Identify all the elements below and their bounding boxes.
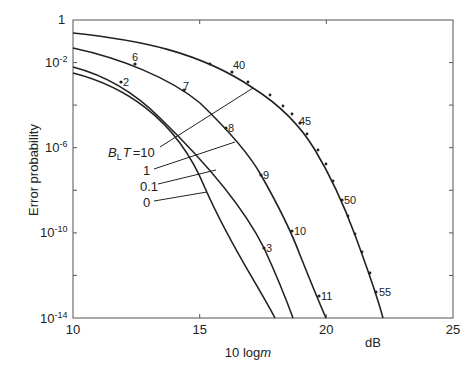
svg-text:11: 11	[321, 290, 332, 302]
svg-text:2: 2	[123, 76, 129, 88]
legend-labels: BLT=10 1 0.1 0	[108, 145, 158, 210]
curve-blt-10	[73, 33, 383, 318]
x-axis-title: 10 logm	[225, 345, 271, 360]
ytick-1e-6: 10-6	[45, 139, 67, 155]
curve-blt-1	[73, 48, 326, 318]
xtick-10: 10	[66, 322, 80, 337]
svg-text:6: 6	[132, 51, 138, 63]
chart: 1 10-2 10-6 10-10 10-14 10 15 20 25 Erro…	[0, 0, 474, 368]
legend-blt-10: BLT=10	[108, 145, 155, 162]
ytick-1: 1	[58, 12, 65, 27]
ytick-1e-14: 10-14	[40, 310, 67, 326]
x-axis-unit: dB	[365, 335, 381, 350]
curve-blt-0	[73, 73, 275, 318]
curve-markers	[119, 62, 377, 297]
legend-blt-0: 0	[143, 195, 150, 210]
svg-text:45: 45	[299, 115, 311, 127]
svg-text:3: 3	[266, 242, 272, 254]
svg-text:55: 55	[379, 286, 391, 298]
legend-blt-0.1: 0.1	[140, 179, 158, 194]
y-tick-labels: 1 10-2 10-6 10-10 10-14	[40, 12, 67, 326]
y-axis-title: Error probability	[26, 124, 41, 216]
svg-text:40: 40	[233, 59, 245, 71]
marker-labels: 2 3 6 7 8 9 10 11 40 45 50 55	[123, 51, 391, 302]
curve-blt-0.1	[73, 67, 293, 318]
curves	[73, 33, 383, 318]
svg-text:50: 50	[344, 194, 356, 206]
xtick-25: 25	[446, 322, 460, 337]
ytick-1e-2: 10-2	[45, 54, 67, 70]
svg-text:7: 7	[183, 80, 189, 92]
x-tick-labels: 10 15 20 25	[66, 322, 460, 337]
svg-text:9: 9	[263, 169, 269, 181]
svg-text:8: 8	[228, 122, 234, 134]
legend-blt-1: 1	[143, 163, 150, 178]
svg-text:10: 10	[294, 225, 306, 237]
xtick-15: 15	[192, 322, 206, 337]
xtick-20: 20	[319, 322, 333, 337]
ytick-1e-10: 10-10	[40, 224, 67, 240]
